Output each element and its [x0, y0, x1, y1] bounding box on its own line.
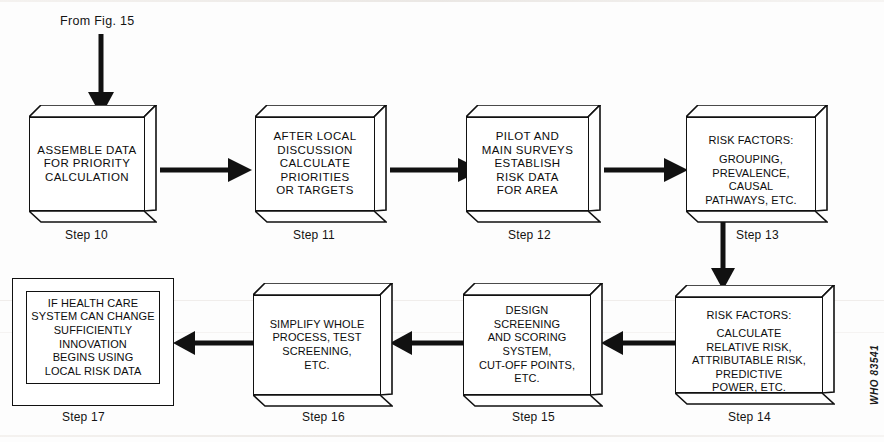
caption-step-11: Step 11 — [293, 228, 335, 242]
node-body: GROUPING, PREVALENCE, CAUSAL PATHWAYS, E… — [705, 153, 796, 206]
scan-artifact-bottom — [0, 435, 884, 437]
node-text: AFTER LOCAL DISCUSSION CALCULATE PRIORIT… — [270, 130, 359, 198]
node-face: RISK FACTORS:CALCULATE RELATIVE RISK, AT… — [675, 297, 823, 393]
node-step-15[interactable]: DESIGN SCREENING AND SCORING SYSTEM, CUT… — [463, 283, 603, 407]
node-step-17[interactable]: IF HEALTH CARE SYSTEM CAN CHANGE SUFFICI… — [12, 278, 174, 406]
node-step-14[interactable]: RISK FACTORS:CALCULATE RELATIVE RISK, AT… — [675, 285, 835, 405]
node-face: IF HEALTH CARE SYSTEM CAN CHANGE SUFFICI… — [26, 291, 160, 384]
node-face: AFTER LOCAL DISCUSSION CALCULATE PRIORIT… — [255, 117, 375, 211]
arrow-step-14-to-step-15 — [601, 330, 681, 356]
arrow-step-16-to-step-17 — [173, 330, 259, 356]
node-body: CALCULATE RELATIVE RISK, ATTRIBUTABLE RI… — [692, 327, 806, 393]
node-heading: RISK FACTORS: — [705, 134, 796, 148]
node-face: RISK FACTORS:GROUPING, PREVALENCE, CAUSA… — [686, 117, 816, 211]
node-step-12[interactable]: PILOT AND MAIN SURVEYS ESTABLISH RISK DA… — [466, 105, 601, 223]
node-text: ASSEMBLE DATA FOR PRIORITY CALCULATION — [34, 144, 139, 185]
entry-label: From Fig. 15 — [60, 14, 134, 28]
node-text: DESIGN SCREENING AND SCORING SYSTEM, CUT… — [476, 304, 578, 386]
node-text: RISK FACTORS:GROUPING, PREVALENCE, CAUSA… — [702, 121, 799, 208]
arrow-step-10-to-step-11 — [160, 157, 254, 183]
caption-step-16: Step 16 — [302, 410, 345, 424]
node-face: PILOT AND MAIN SURVEYS ESTABLISH RISK DA… — [466, 117, 589, 211]
caption-step-13: Step 13 — [736, 228, 779, 242]
node-heading: RISK FACTORS: — [692, 309, 806, 323]
node-step-10[interactable]: ASSEMBLE DATA FOR PRIORITY CALCULATION — [29, 105, 157, 223]
node-text: RISK FACTORS:CALCULATE RELATIVE RISK, AT… — [689, 295, 809, 395]
node-face: DESIGN SCREENING AND SCORING SYSTEM, CUT… — [463, 295, 591, 395]
caption-step-15: Step 15 — [512, 410, 555, 424]
node-step-16[interactable]: SIMPLIFY WHOLE PROCESS, TEST SCREENING, … — [253, 283, 393, 407]
caption-step-17: Step 17 — [62, 410, 105, 424]
node-face: ASSEMBLE DATA FOR PRIORITY CALCULATION — [29, 117, 145, 211]
node-step-13[interactable]: RISK FACTORS:GROUPING, PREVALENCE, CAUSA… — [686, 105, 828, 223]
caption-step-12: Step 12 — [508, 228, 551, 242]
node-text: IF HEALTH CARE SYSTEM CAN CHANGE SUFFICI… — [28, 297, 157, 379]
source-code-label: WHO 83541 — [869, 345, 880, 405]
node-face: SIMPLIFY WHOLE PROCESS, TEST SCREENING, … — [253, 295, 381, 395]
arrow-step-12-to-step-13 — [604, 157, 690, 183]
arrow-step-13-to-step-14 — [709, 222, 737, 292]
flowchart-figure: From Fig. 15 ASSEMBLE DATA FOR PRIORITY … — [0, 0, 884, 442]
arrow-step-15-to-step-16 — [390, 330, 470, 356]
node-text: SIMPLIFY WHOLE PROCESS, TEST SCREENING, … — [267, 318, 368, 372]
caption-step-10: Step 10 — [65, 228, 108, 242]
node-text: PILOT AND MAIN SURVEYS ESTABLISH RISK DA… — [479, 130, 577, 198]
node-step-11[interactable]: AFTER LOCAL DISCUSSION CALCULATE PRIORIT… — [255, 105, 387, 223]
caption-step-14: Step 14 — [728, 410, 771, 424]
scan-artifact-top — [0, 0, 884, 2]
